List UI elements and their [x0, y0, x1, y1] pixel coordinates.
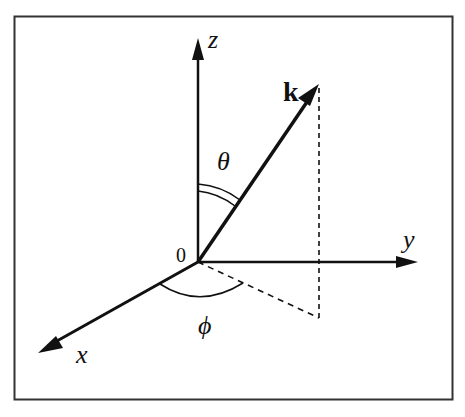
k-vector-label: k — [283, 76, 299, 107]
z-axis-label: z — [207, 25, 218, 54]
theta-label: θ — [217, 147, 230, 176]
phi-arc — [160, 283, 243, 297]
diagram-canvas: z y x 0 k θ ϕ — [0, 0, 465, 417]
z-axis-arrowhead — [192, 38, 204, 60]
y-axis-arrowhead — [396, 256, 418, 268]
x-axis-label: x — [75, 340, 88, 369]
y-axis-label: y — [400, 225, 415, 254]
phi-label: ϕ — [198, 311, 211, 340]
k-projection-ground — [198, 262, 319, 318]
origin-label: 0 — [176, 244, 186, 266]
k-vector — [198, 96, 311, 262]
x-axis — [48, 262, 198, 346]
k-vector-arrowhead — [298, 84, 319, 106]
